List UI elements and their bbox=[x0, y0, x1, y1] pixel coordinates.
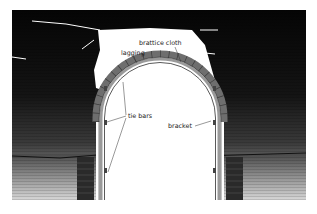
label-brattice-cloth: brattice cloth bbox=[139, 39, 182, 47]
label-bracket: bracket bbox=[168, 122, 193, 130]
label-lagging: lagging bbox=[121, 49, 145, 57]
tunnel-support-diagram: brattice cloth lagging tie bars bracket bbox=[0, 0, 317, 214]
cribbing-right bbox=[226, 157, 243, 200]
label-tie-bars: tie bars bbox=[128, 112, 153, 120]
cribbing-left bbox=[77, 157, 94, 200]
